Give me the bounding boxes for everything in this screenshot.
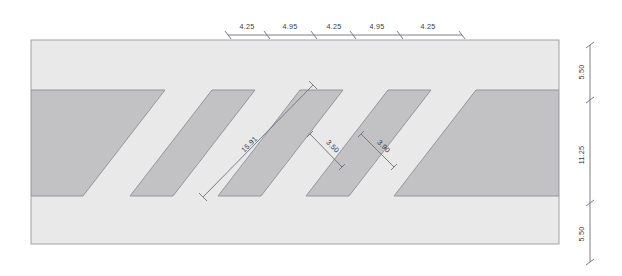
- technical-drawing: 4.25 4.95 4.25 4.95 4.25 5.50 11.25 5.50…: [0, 0, 622, 276]
- top-dimension-label-3: 4.25: [327, 22, 342, 31]
- right-dimension-label-2: 11.25: [577, 146, 586, 164]
- right-dimension-label-1: 5.50: [577, 65, 586, 80]
- top-dimension-label-2: 4.95: [283, 22, 298, 31]
- top-dimension-chain: 4.25 4.95 4.25 4.95 4.25: [225, 22, 465, 39]
- cad-canvas: 4.25 4.95 4.25 4.95 4.25 5.50 11.25 5.50…: [0, 0, 622, 276]
- top-dimension-label-1: 4.25: [240, 22, 255, 31]
- top-dimension-label-4: 4.95: [370, 22, 385, 31]
- top-dimension-label-5: 4.25: [421, 22, 436, 31]
- right-dimension-chain: 5.50 11.25 5.50: [577, 42, 594, 265]
- right-dimension-label-3: 5.50: [577, 227, 586, 242]
